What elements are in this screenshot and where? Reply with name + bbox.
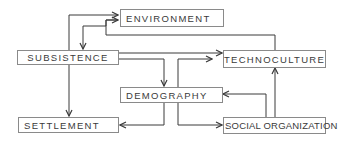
- node-label: SUBSISTENCE: [27, 52, 108, 63]
- systems-diagram: ENVIRONMENT SUBSISTENCE TECHNOCULTURE DE…: [0, 0, 341, 149]
- node-environment: ENVIRONMENT: [120, 9, 224, 27]
- node-label: ENVIRONMENT: [126, 13, 211, 24]
- edge-demography-social: [178, 103, 222, 125]
- node-technoculture: TECHNOCULTURE: [223, 50, 326, 68]
- node-label: SOCIAL ORGANIZATION: [225, 120, 338, 131]
- node-label: SETTLEMENT: [24, 120, 100, 131]
- edge-subsistence-demography: [119, 59, 164, 86]
- node-demography: DEMOGRAPHY: [120, 87, 223, 103]
- edge-social-demography: [223, 94, 266, 117]
- edge-demography-technoculture: [178, 59, 212, 87]
- node-label: TECHNOCULTURE: [224, 54, 325, 65]
- node-social-organization: SOCIAL ORGANIZATION: [223, 117, 326, 134]
- node-subsistence: SUBSISTENCE: [17, 50, 119, 65]
- node-settlement: SETTLEMENT: [18, 117, 119, 133]
- node-label: DEMOGRAPHY: [126, 90, 208, 101]
- edge-demography-settlement: [120, 103, 164, 125]
